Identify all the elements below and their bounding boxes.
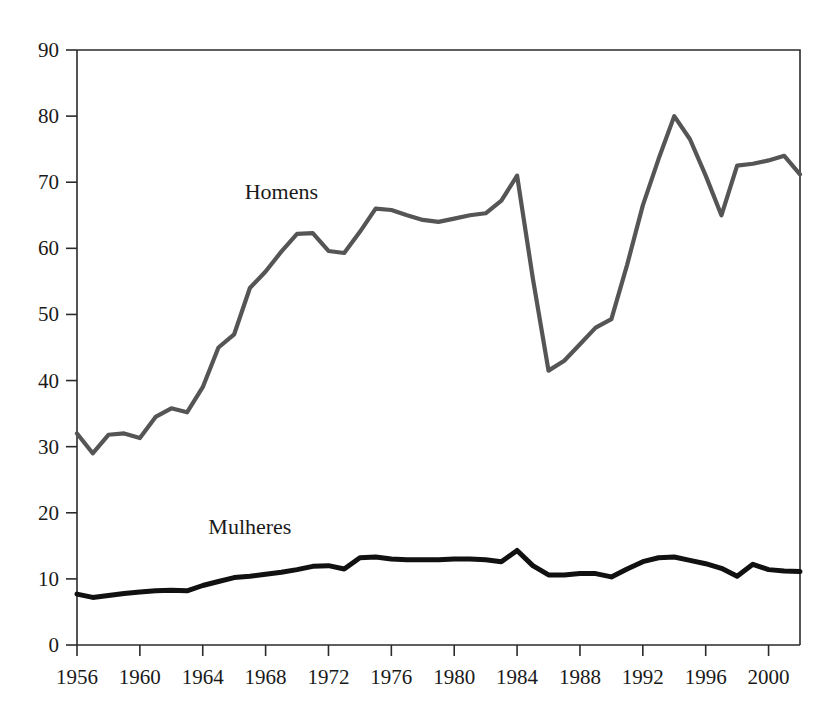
series-label-homens: Homens: [245, 179, 318, 204]
data-series-group: [77, 116, 800, 597]
y-tick-label: 10: [38, 567, 59, 591]
x-tick-label: 1976: [370, 665, 412, 689]
series-line-mulheres: [77, 550, 800, 597]
x-axis: 1956196019641968197219761980198419881992…: [56, 645, 790, 689]
x-tick-label: 1984: [496, 665, 539, 689]
x-tick-label: 1956: [56, 665, 98, 689]
y-tick-label: 70: [38, 170, 59, 194]
x-tick-label: 2000: [748, 665, 790, 689]
y-tick-label: 40: [38, 369, 59, 393]
x-tick-label: 1968: [245, 665, 287, 689]
y-tick-label: 60: [38, 236, 59, 260]
x-tick-label: 1964: [182, 665, 225, 689]
x-tick-label: 1996: [685, 665, 727, 689]
y-tick-label: 90: [38, 38, 59, 62]
series-label-mulheres: Mulheres: [208, 514, 291, 539]
y-tick-label: 0: [49, 633, 60, 657]
y-tick-label: 20: [38, 501, 59, 525]
chart-canvas: 0102030405060708090 19561960196419681972…: [0, 0, 835, 726]
x-tick-label: 1960: [119, 665, 161, 689]
line-chart: 0102030405060708090 19561960196419681972…: [0, 0, 835, 726]
x-tick-label: 1980: [433, 665, 475, 689]
y-tick-label: 30: [38, 435, 59, 459]
series-line-homens: [77, 116, 800, 453]
x-tick-label: 1992: [622, 665, 664, 689]
y-axis: 0102030405060708090: [38, 38, 77, 657]
y-tick-label: 50: [38, 302, 59, 326]
x-tick-label: 1988: [559, 665, 601, 689]
x-tick-label: 1972: [307, 665, 349, 689]
y-tick-label: 80: [38, 104, 59, 128]
